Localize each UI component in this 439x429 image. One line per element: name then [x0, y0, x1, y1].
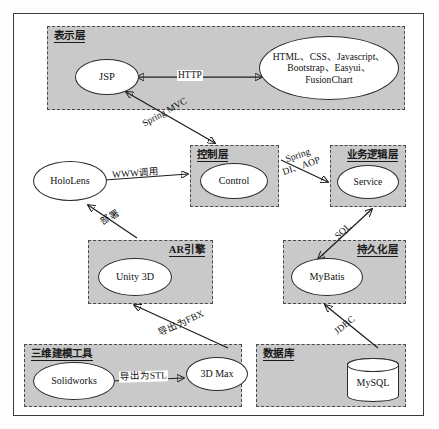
node-hololens[interactable]: HoloLens — [33, 161, 107, 201]
node-mybatis-label: MyBatis — [309, 271, 344, 283]
node-mysql[interactable]: MySQL — [347, 358, 399, 402]
node-hololens-label: HoloLens — [50, 175, 89, 187]
node-jsp-label: JSP — [99, 71, 115, 83]
layer-title-ar-engine: AR引擎 — [169, 244, 205, 257]
node-frontend-line2: Bootstrap、Easyui、 — [273, 62, 386, 73]
node-3dmax-label: 3D Max — [200, 368, 233, 380]
edge-label-export-stl: 导出为STL — [119, 370, 168, 382]
layer-title-modeling: 三维建模工具 — [31, 348, 93, 361]
layer-title-database: 数据库 — [263, 348, 294, 361]
node-service[interactable]: Service — [337, 165, 399, 199]
node-unity3d[interactable]: Unity 3D — [98, 258, 172, 296]
architecture-diagram: 表示层 控制层 业务逻辑层 AR引擎 持久化层 三维建模工具 数据库 — [0, 0, 439, 429]
node-solidworks-label: Solidworks — [51, 375, 97, 387]
node-control-label: Control — [219, 175, 250, 187]
node-frontend-line3: FusionChart — [273, 74, 386, 85]
node-3dmax[interactable]: 3D Max — [186, 357, 248, 391]
node-control[interactable]: Control — [200, 163, 268, 199]
node-jsp[interactable]: JSP — [75, 59, 139, 95]
node-solidworks[interactable]: Solidworks — [33, 362, 115, 400]
node-frontend-stack[interactable]: HTML、CSS、Javascript、 Bootstrap、Easyui、 F… — [259, 36, 399, 100]
layer-title-persistence: 持久化层 — [357, 244, 398, 257]
node-service-label: Service — [354, 176, 383, 187]
node-frontend-line1: HTML、CSS、Javascript、 — [273, 51, 386, 62]
node-mysql-label: MySQL — [348, 377, 398, 388]
node-mybatis[interactable]: MyBatis — [291, 258, 363, 296]
layer-title-control: 控制层 — [197, 149, 228, 162]
cylinder-top-icon — [347, 358, 399, 373]
node-unity3d-label: Unity 3D — [116, 271, 154, 283]
edge-label-http: HTTP — [177, 70, 203, 81]
layer-title-business: 业务逻辑层 — [347, 149, 399, 162]
layer-title-presentation: 表示层 — [54, 30, 85, 43]
